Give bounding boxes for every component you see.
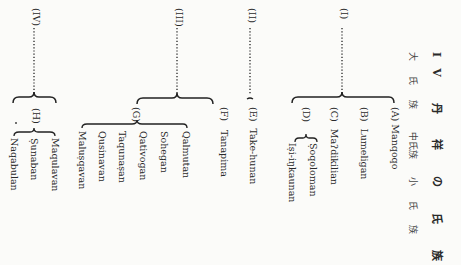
- group-label-iii: (III): [175, 8, 185, 27]
- subclan-d-2: Iṣi-iŋkaunan: [288, 143, 298, 202]
- clan-f: (F) Tanapima: [220, 107, 230, 177]
- clan-d-label: (D): [302, 107, 312, 122]
- clan-name: Maʔdikilian: [329, 129, 340, 185]
- clan-name: Manqoqo: [390, 124, 401, 169]
- subclan-g-2: Sohegan: [160, 131, 170, 173]
- subclan-g-6: Maluṣqavan: [78, 131, 88, 189]
- group-label-iv: (IV): [32, 8, 42, 26]
- clan-c: (C) Maʔdikilian: [330, 107, 340, 185]
- subclan-g-1: Qalmutan: [182, 131, 192, 178]
- clan-label: (F): [219, 107, 230, 121]
- subclan-g-3: Qativogan: [139, 131, 149, 180]
- clan-b: (B) Lumeligan: [360, 107, 370, 179]
- group-label-i: (I): [340, 8, 350, 19]
- clan-h-label: (H): [32, 108, 42, 124]
- subclan-h-1: Maqulavan: [51, 138, 61, 191]
- clan-label: (E): [248, 107, 259, 121]
- clan-name: Take-hunan: [248, 128, 259, 184]
- clan-label: (C): [329, 107, 340, 122]
- clan-label: (B): [359, 107, 370, 121]
- subclan-g-4: Taqunaṣan: [118, 131, 128, 183]
- clan-g-label: (G): [132, 107, 142, 122]
- subclan-h-2: Ṣunaban: [30, 138, 40, 180]
- clan-name: Lumeligan: [359, 128, 370, 179]
- subclan-g-5: Qusinavan: [98, 131, 108, 182]
- subclan-h-3: Naqabulan: [10, 138, 20, 191]
- clan-a: (A) Manqoqo: [391, 107, 401, 169]
- stray-dot: [15, 122, 17, 124]
- clan-label: (A): [390, 107, 401, 121]
- group-label-ii: (II): [248, 8, 258, 23]
- clan-e: (E) Take-hunan: [249, 107, 259, 184]
- clan-name: Tanapima: [219, 130, 230, 177]
- subclan-d-1: Ṣoqoloman: [309, 143, 319, 197]
